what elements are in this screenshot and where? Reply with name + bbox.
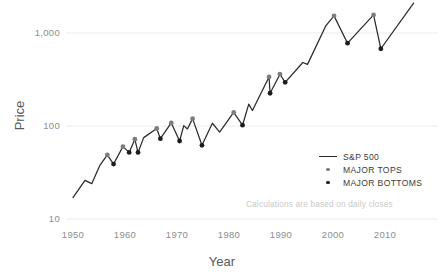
y-tick-1000: 1,000 <box>8 27 60 38</box>
x-tick-1990: 1990 <box>256 229 306 240</box>
major-bottom-point <box>345 41 350 46</box>
major-top-point <box>278 72 283 77</box>
major-bottom-point <box>268 91 273 96</box>
legend-item-major-tops[interactable]: MAJOR TOPS <box>318 163 422 176</box>
major-bottom-point <box>283 80 288 85</box>
legend-item-major-bottoms[interactable]: MAJOR BOTTOMS <box>318 176 422 189</box>
x-tick-1960: 1960 <box>100 229 150 240</box>
major-top-point <box>121 144 126 149</box>
major-top-point <box>267 75 272 80</box>
chart-footnote: Calculations are based on daily closes <box>246 200 393 209</box>
legend-label-major-bottoms: MAJOR BOTTOMS <box>343 178 422 188</box>
major-bottom-point <box>240 123 245 128</box>
gridlines <box>66 33 438 219</box>
major-top-point <box>332 14 337 19</box>
line-swatch-icon <box>318 156 338 157</box>
major-bottom-point <box>200 143 205 148</box>
major-top-point <box>154 126 159 131</box>
major-top-point <box>190 116 195 121</box>
major-bottom-point <box>127 150 132 155</box>
chart-legend: S&P 500 MAJOR TOPS MAJOR BOTTOMS <box>318 150 422 189</box>
major-bottoms-markers <box>111 41 383 167</box>
x-tick-2010: 2010 <box>360 229 410 240</box>
major-bottom-point <box>177 139 182 144</box>
legend-label-major-tops: MAJOR TOPS <box>343 165 402 175</box>
y-tick-10: 10 <box>8 213 60 224</box>
x-tick-1970: 1970 <box>152 229 202 240</box>
major-top-point <box>169 120 174 125</box>
black-dot-icon <box>318 181 338 185</box>
gray-dot-icon <box>318 168 338 172</box>
major-tops-markers <box>105 13 376 158</box>
legend-item-sp500[interactable]: S&P 500 <box>318 150 422 163</box>
chart-container: 101001,000 1950196019701980199020002010 … <box>0 0 444 280</box>
major-top-point <box>231 110 236 115</box>
x-tick-1950: 1950 <box>48 229 98 240</box>
major-bottom-point <box>158 136 163 141</box>
major-top-point <box>371 13 376 18</box>
x-tick-2000: 2000 <box>308 229 358 240</box>
x-tick-1980: 1980 <box>204 229 254 240</box>
major-top-point <box>105 152 110 157</box>
legend-label-sp500: S&P 500 <box>343 152 379 162</box>
x-axis-title: Year <box>0 254 444 269</box>
major-bottom-point <box>111 162 116 167</box>
y-axis-title: Price <box>12 86 27 146</box>
major-bottom-point <box>136 150 141 155</box>
major-bottom-point <box>378 46 383 51</box>
major-top-point <box>132 137 137 142</box>
